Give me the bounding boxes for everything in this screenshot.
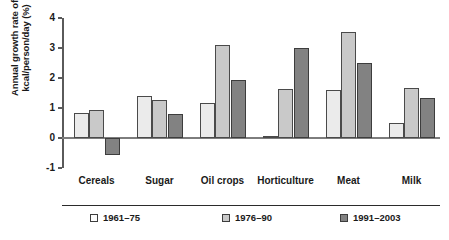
y-tick-label: 2: [49, 73, 55, 83]
bar: [357, 63, 372, 138]
bar: [200, 103, 215, 138]
legend-label: 1976–90: [235, 213, 272, 223]
bar: [404, 88, 419, 138]
y-tick-mark: [58, 77, 62, 78]
bar: [137, 96, 152, 138]
y-tick-label: 4: [49, 13, 55, 23]
bar: [420, 98, 435, 139]
bar: [89, 110, 104, 139]
y-axis-line: [62, 18, 64, 168]
bar: [278, 89, 293, 139]
bar: [389, 123, 404, 138]
x-axis-label: Meat: [337, 176, 360, 186]
y-tick-mark: [58, 47, 62, 48]
bar-chart: Annual growth rate of kcal/person/day (%…: [0, 0, 449, 240]
legend-item[interactable]: 1976–90: [222, 213, 272, 223]
bar: [341, 32, 356, 139]
y-tick-mark: [58, 17, 62, 18]
bar: [231, 80, 246, 139]
legend-swatch-icon: [90, 214, 98, 222]
bar: [168, 114, 183, 138]
x-axis-label: Cereals: [78, 176, 114, 186]
bar: [74, 113, 89, 139]
legend-swatch-icon: [340, 214, 348, 222]
x-axis-label: Horticulture: [257, 176, 314, 186]
y-tick-label: 0: [49, 133, 55, 143]
y-axis-title: Annual growth rate of kcal/person/day (%…: [0, 0, 40, 122]
y-tick-label: -1: [46, 163, 55, 173]
legend-item[interactable]: 1991–2003: [340, 213, 401, 223]
y-tick-mark: [58, 167, 62, 168]
y-tick-label: 1: [49, 103, 55, 113]
legend-item[interactable]: 1961–75: [90, 213, 140, 223]
y-tick-mark: [58, 107, 62, 108]
bar: [263, 136, 278, 138]
y-tick-mark: [58, 137, 62, 138]
bar: [326, 90, 341, 138]
legend-label: 1961–75: [103, 213, 140, 223]
y-tick-label: 3: [49, 43, 55, 53]
bar: [152, 100, 167, 138]
legend-swatch-icon: [222, 214, 230, 222]
x-axis-label: Milk: [402, 176, 421, 186]
plot-area: -101234: [62, 18, 440, 168]
bar: [294, 48, 309, 138]
legend-label: 1991–2003: [353, 213, 401, 223]
bar: [105, 138, 120, 155]
x-axis-label: Oil crops: [201, 176, 244, 186]
bar: [215, 45, 230, 138]
chart-legend: 1961–751976–901991–2003: [62, 205, 440, 228]
x-axis-label: Sugar: [145, 176, 173, 186]
